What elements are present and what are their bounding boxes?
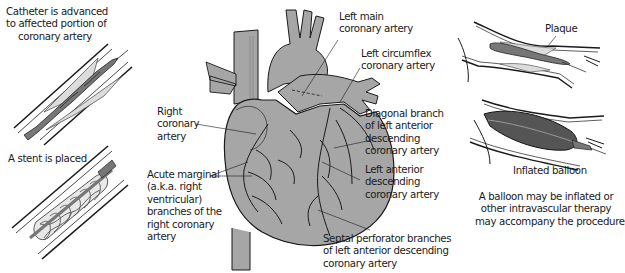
label-line: Left circumflex bbox=[361, 48, 435, 60]
label-inflated-balloon: Inflated balloon bbox=[513, 165, 587, 177]
label-line: Acute marginal bbox=[147, 169, 222, 181]
catheter-caption-line: coronary artery bbox=[6, 31, 104, 43]
label-line: coronary artery bbox=[365, 189, 439, 201]
label-line: artery bbox=[157, 131, 199, 143]
balloon-caption-line: other intravascular therapy bbox=[475, 203, 617, 215]
label-plaque: Plaque bbox=[545, 23, 577, 35]
label-line: Diagonal branch bbox=[365, 108, 444, 120]
catheter bbox=[24, 58, 118, 140]
superior-vena-cava bbox=[234, 30, 258, 104]
label-line: Septal perforator branches bbox=[323, 233, 451, 245]
label-line: ventricular) bbox=[147, 194, 222, 206]
label-line: descending bbox=[365, 133, 444, 145]
label-septal-perforator-branches: Septal perforator branches of left anter… bbox=[323, 233, 451, 270]
catheter-artery-illustration bbox=[14, 44, 132, 145]
label-line: of left anterior bbox=[365, 120, 444, 132]
catheter-caption-line: to affected portion of bbox=[6, 18, 104, 30]
label-line: coronary artery bbox=[361, 60, 435, 72]
label-line: artery bbox=[147, 231, 222, 243]
label-left-main-coronary-artery: Left main coronary artery bbox=[339, 11, 413, 36]
label-line: Left anterior bbox=[365, 164, 439, 176]
label-line: coronary artery bbox=[365, 145, 444, 157]
balloon-caption: A balloon may be inflated or other intra… bbox=[475, 191, 617, 228]
label-left-anterior-descending: Left anterior descending coronary artery bbox=[365, 164, 439, 201]
label-right-coronary-artery: Right coronary artery bbox=[157, 106, 199, 143]
label-line: coronary artery bbox=[323, 258, 451, 270]
label-line: coronary bbox=[157, 118, 199, 130]
label-line: coronary artery bbox=[339, 23, 413, 35]
label-diagonal-branch: Diagonal branch of left anterior descend… bbox=[365, 108, 444, 158]
inflated-balloon-illustration bbox=[470, 100, 606, 170]
catheter-caption: Catheter is advanced to affected portion… bbox=[6, 6, 104, 43]
label-line: Right bbox=[157, 106, 199, 118]
plaque-artery-illustration bbox=[458, 22, 600, 88]
balloon-caption-line: A balloon may be inflated or bbox=[475, 191, 617, 203]
label-line: Left main bbox=[339, 11, 413, 23]
label-line: descending bbox=[365, 176, 439, 188]
plaque-pointer bbox=[548, 36, 556, 46]
label-line: (a.k.a. right bbox=[147, 181, 222, 193]
catheter-caption-line: Catheter is advanced bbox=[6, 6, 104, 18]
stent-caption: A stent is placed bbox=[8, 153, 87, 165]
label-line: right coronary bbox=[147, 219, 222, 231]
label-line: of left anterior descending bbox=[323, 245, 451, 257]
label-line: branches of the bbox=[147, 206, 222, 218]
label-acute-marginal-branches: Acute marginal (a.k.a. right ventricular… bbox=[147, 169, 222, 243]
balloon-caption-line: may accompany the procedure bbox=[475, 216, 617, 228]
label-left-circumflex-coronary-artery: Left circumflex coronary artery bbox=[361, 48, 435, 73]
